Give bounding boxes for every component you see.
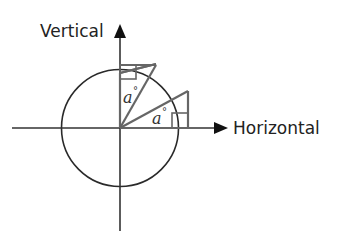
lower-right-angle-marker — [172, 113, 188, 128]
lower-angle-label: a — [152, 109, 162, 128]
vertical-arrow-icon — [114, 24, 126, 38]
upper-angle-label: a — [123, 88, 133, 107]
horizontal-axis-label: Horizontal — [233, 118, 320, 138]
horizontal-arrow-icon — [214, 122, 228, 134]
upper-degree-symbol: ° — [133, 85, 138, 96]
lower-degree-symbol: ° — [162, 106, 167, 117]
vertical-axis-label: Vertical — [40, 21, 104, 41]
unit-circle-diagram: a ° a ° Vertical Horizontal — [0, 0, 351, 236]
